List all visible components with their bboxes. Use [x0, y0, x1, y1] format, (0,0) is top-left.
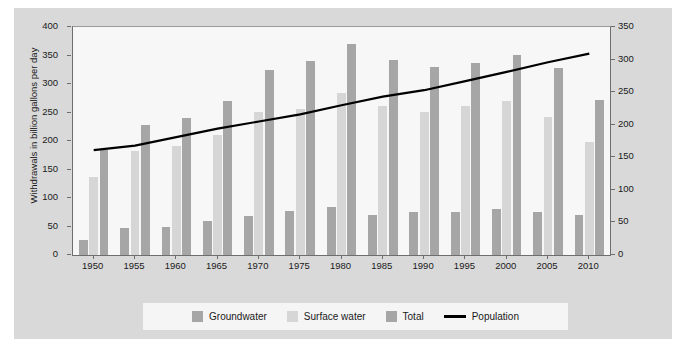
x-tick-1980: 1980 [319, 260, 363, 271]
y-tickmark-left-100 [67, 197, 71, 198]
x-tick-1970: 1970 [236, 260, 280, 271]
legend-label: Total [403, 311, 424, 322]
legend-item-total[interactable]: Total [386, 311, 424, 322]
x-tick-1995: 1995 [442, 260, 486, 271]
y-tick-right-150: 150 [618, 150, 648, 161]
y-tickmark-left-400 [67, 26, 71, 27]
y-tickmark-left-300 [67, 83, 71, 84]
x-tick-1950: 1950 [71, 260, 115, 271]
population-polyline [94, 54, 590, 150]
x-tick-1960: 1960 [153, 260, 197, 271]
legend-label: Surface water [304, 311, 366, 322]
plot-area [72, 26, 611, 256]
legend-item-surface-water[interactable]: Surface water [287, 311, 366, 322]
y-tick-left-400: 400 [28, 20, 58, 31]
legend-swatch-icon [386, 311, 397, 322]
population-line-series [73, 27, 610, 255]
legend-line-icon [444, 315, 466, 318]
y-tickmark-right-150 [611, 156, 615, 157]
y-tickmark-right-350 [611, 26, 615, 27]
chart-legend: GroundwaterSurface waterTotalPopulation [143, 303, 568, 330]
legend-label: Population [472, 311, 519, 322]
y-tick-right-100: 100 [618, 183, 648, 194]
y-tickmark-left-200 [67, 140, 71, 141]
y-tickmark-right-200 [611, 124, 615, 125]
y-tick-left-350: 350 [28, 49, 58, 60]
x-tick-1975: 1975 [277, 260, 321, 271]
y-tickmark-left-0 [67, 254, 71, 255]
y-tickmark-left-250 [67, 112, 71, 113]
chart-figure: Withdrawals in billion gallons per day P… [14, 8, 672, 339]
y-tickmark-left-350 [67, 55, 71, 56]
x-tick-2005: 2005 [525, 260, 569, 271]
y-tickmark-right-0 [611, 254, 615, 255]
y-tick-left-250: 250 [28, 106, 58, 117]
y-axis-left-title: Withdrawals in billion gallons per day [28, 41, 39, 211]
y-tickmark-right-50 [611, 221, 615, 222]
legend-label: Groundwater [209, 311, 267, 322]
y-tick-right-0: 0 [618, 248, 648, 259]
y-tick-left-50: 50 [28, 220, 58, 231]
legend-swatch-icon [192, 311, 203, 322]
x-tick-1985: 1985 [360, 260, 404, 271]
x-tick-2000: 2000 [484, 260, 528, 271]
legend-swatch-icon [287, 311, 298, 322]
y-tickmark-right-100 [611, 189, 615, 190]
legend-item-groundwater[interactable]: Groundwater [192, 311, 267, 322]
y-tick-right-200: 200 [618, 118, 648, 129]
x-tick-1955: 1955 [112, 260, 156, 271]
x-tick-1965: 1965 [195, 260, 239, 271]
y-tickmark-right-300 [611, 59, 615, 60]
y-tick-left-100: 100 [28, 191, 58, 202]
y-tick-right-250: 250 [618, 85, 648, 96]
y-tick-left-0: 0 [28, 248, 58, 259]
y-tick-right-300: 300 [618, 53, 648, 64]
x-tick-1990: 1990 [401, 260, 445, 271]
y-tick-right-350: 350 [618, 20, 648, 31]
y-tickmark-right-250 [611, 91, 615, 92]
y-tick-left-300: 300 [28, 77, 58, 88]
legend-item-population[interactable]: Population [444, 311, 519, 322]
y-tickmark-left-150 [67, 169, 71, 170]
y-tick-left-150: 150 [28, 163, 58, 174]
x-tick-2010: 2010 [566, 260, 610, 271]
y-tick-left-200: 200 [28, 134, 58, 145]
y-tickmark-left-50 [67, 226, 71, 227]
y-tick-right-50: 50 [618, 215, 648, 226]
